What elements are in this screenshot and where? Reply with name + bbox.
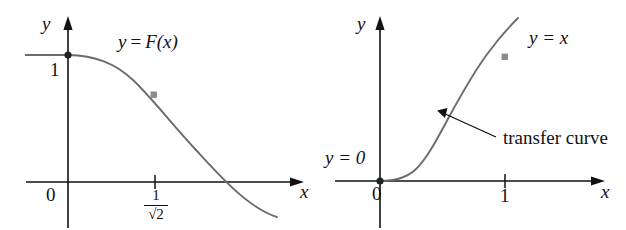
- y-axis-label-right: y: [357, 14, 365, 33]
- baseline-equation-label: y = 0: [325, 148, 365, 167]
- plot-right-graphics: [313, 0, 626, 230]
- curve-equation-label-left: y=F(x): [118, 32, 178, 51]
- fraction-numerator: 1: [144, 188, 168, 206]
- marker-point-origin-left: [64, 51, 71, 58]
- marker-point-on-curve-right: [502, 54, 508, 60]
- annotation-arrowhead: [437, 108, 448, 118]
- curve-equation-rhs-left: F(x): [145, 31, 178, 52]
- fraction-radicand: 2: [155, 205, 165, 222]
- origin-label-left: 0: [46, 185, 56, 204]
- x-tick-label-one-over-root-two: 1 √2: [144, 188, 168, 223]
- curve-transfer: [380, 18, 518, 181]
- y-axis-arrowhead-left: [63, 16, 72, 30]
- annotation-arrow-line: [443, 113, 496, 137]
- curve-equation-lhs-left: y: [118, 31, 126, 52]
- marker-point-on-curve-left: [151, 92, 157, 98]
- curve-F-of-x: [68, 55, 277, 217]
- fraction-denominator: √2: [144, 206, 168, 223]
- x-tick-label-one-right: 1: [500, 186, 510, 205]
- figure-root: y x 1 0 y=F(x) 1 √2: [0, 0, 626, 230]
- curve-equation-label-right: y = x: [529, 28, 568, 47]
- y-tick-label-one-left: 1: [50, 60, 60, 79]
- square-root-icon: √2: [147, 207, 165, 223]
- x-axis-label-left: x: [300, 182, 308, 201]
- transfer-curve-annotation: transfer curve: [503, 128, 608, 147]
- x-axis-label-right: x: [601, 182, 609, 201]
- origin-label-right: 0: [372, 184, 382, 203]
- plot-panel-left: y x 1 0 y=F(x) 1 √2: [0, 0, 313, 230]
- curve-equation-eq-left: =: [130, 31, 141, 52]
- plot-panel-right: y x 1 0 y = 0 y = x transfer curve: [313, 0, 626, 230]
- y-axis-arrowhead-right: [375, 16, 384, 30]
- y-axis-label-left: y: [42, 14, 50, 33]
